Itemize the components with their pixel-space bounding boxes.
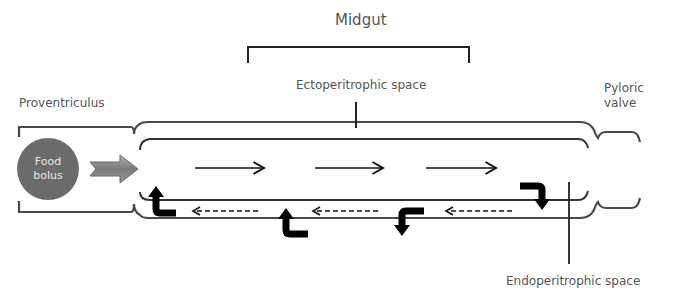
peritrophic-matrix-bottom <box>140 191 588 200</box>
midgut-diagram <box>0 0 681 304</box>
pyloric-label-line2: valve <box>604 96 636 111</box>
endoperitrophic-label: Endoperitrophic space <box>506 274 640 289</box>
midgut-bracket <box>248 47 469 63</box>
food-bolus-label-line1: Food <box>20 155 76 169</box>
proventriculus-label: Proventriculus <box>19 96 105 111</box>
peritrophic-matrix-top <box>140 139 588 150</box>
pyloric-label-line1: Pyloric <box>604 81 644 96</box>
backward-dashed-arrows <box>193 207 512 215</box>
bent-arrow-right-down <box>520 186 550 210</box>
midgut-label: Midgut <box>335 13 387 28</box>
block-arrow-icon <box>90 155 138 183</box>
food-bolus-label-line2: bolus <box>20 169 76 183</box>
ectoperitrophic-label: Ectoperitrophic space <box>296 78 426 93</box>
bent-arrow-middle-down <box>394 211 424 236</box>
bent-arrow-middle-up <box>278 208 308 234</box>
